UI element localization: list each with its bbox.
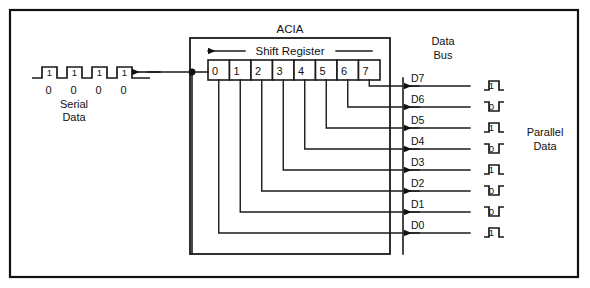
parallel-bit-value: 1: [489, 80, 494, 91]
cell-to-bus-wire: [283, 80, 402, 170]
serial-junction-dot: [189, 69, 196, 76]
serial-low-bit-label: 0: [95, 84, 101, 96]
acia-title: ACIA: [277, 23, 304, 35]
shift-register-cell-label: 0: [212, 65, 218, 77]
parallel-bit-value: 0: [489, 143, 494, 154]
data-bus-label-line1: Data: [431, 35, 455, 47]
shift-register-cell-label: 6: [341, 65, 347, 77]
cell-to-bus-routing: [219, 80, 402, 233]
cell-to-bus-wire: [240, 80, 402, 212]
data-bus-lines: D71D60D51D40D31D20D10D01: [404, 72, 504, 238]
serial-high-bit-label: 1: [122, 67, 127, 78]
shift-register-cell-label: 7: [363, 65, 369, 77]
data-bus-line-label: D5: [411, 114, 425, 126]
serial-label-line1: Serial: [60, 98, 88, 110]
serial-high-bit-label: 1: [72, 67, 77, 78]
cell-to-bus-wire: [219, 80, 402, 233]
serial-low-bit-label: 0: [70, 84, 76, 96]
shift-register-cell-label: 3: [277, 65, 283, 77]
serial-waveform: 11110000: [32, 67, 150, 97]
data-bus-label-line2: Bus: [434, 49, 453, 61]
data-bus-line-label: D4: [411, 135, 425, 147]
cell-to-bus-wire: [369, 80, 402, 86]
serial-low-bit-label: 0: [120, 84, 126, 96]
serial-high-bit-label: 1: [47, 67, 52, 78]
data-bus-line-label: D7: [411, 72, 425, 84]
shift-register-cell-label: 2: [255, 65, 261, 77]
diagram-canvas: ACIA Shift Register 01234567 11110000 Se…: [0, 0, 590, 288]
shift-register-cell-label: 5: [320, 65, 326, 77]
parallel-bit-value: 1: [489, 227, 494, 238]
shift-register-cells: 01234567: [208, 60, 380, 80]
serial-label-line2: Data: [62, 111, 86, 123]
data-bus-line-label: D1: [411, 198, 425, 210]
data-bus-line-label: D3: [411, 156, 425, 168]
cell-to-bus-wire: [305, 80, 402, 149]
parallel-label-line1: Parallel: [527, 126, 564, 138]
acia-diagram: ACIA Shift Register 01234567 11110000 Se…: [0, 0, 590, 288]
parallel-bit-value: 0: [489, 185, 494, 196]
shift-register-cell-label: 4: [298, 65, 304, 77]
serial-high-bit-label: 1: [97, 67, 102, 78]
data-bus-line-label: D0: [411, 219, 425, 231]
shift-register-label: Shift Register: [255, 45, 324, 57]
shift-register-cell-label: 1: [234, 65, 240, 77]
parallel-bit-value: 1: [489, 122, 494, 133]
parallel-bit-value: 0: [489, 206, 494, 217]
serial-low-bit-label: 0: [45, 84, 51, 96]
data-bus-line-label: D2: [411, 177, 425, 189]
parallel-bit-value: 0: [489, 101, 494, 112]
parallel-bit-value: 1: [489, 164, 494, 175]
parallel-label-line2: Data: [533, 140, 557, 152]
cell-to-bus-wire: [348, 80, 402, 107]
data-bus-line-label: D6: [411, 93, 425, 105]
